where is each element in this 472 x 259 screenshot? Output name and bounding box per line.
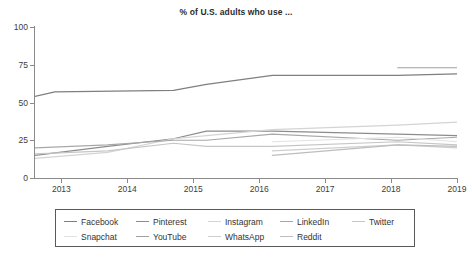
x-tick-mark <box>457 179 458 183</box>
legend-swatch-icon <box>136 221 149 222</box>
legend-item-label: Facebook <box>81 217 118 227</box>
y-tick-label: 25 <box>0 135 28 145</box>
line-series-facebook <box>35 74 457 97</box>
legend-item-twitter[interactable]: Twitter <box>352 214 394 229</box>
legend-swatch-icon <box>352 221 365 222</box>
legend-row: SnapchatYouTubeWhatsAppReddit <box>56 229 414 244</box>
legend-item-linkedin[interactable]: LinkedIn <box>280 214 329 229</box>
legend-item-reddit[interactable]: Reddit <box>280 229 322 244</box>
legend-item-label: Twitter <box>369 217 394 227</box>
x-tick-mark <box>61 179 62 183</box>
line-series-group <box>35 27 457 178</box>
legend-item-instagram[interactable]: Instagram <box>208 214 263 229</box>
legend-item-pinterest[interactable]: Pinterest <box>136 214 187 229</box>
legend-swatch-icon <box>280 221 293 222</box>
line-series-snapchat <box>272 137 457 142</box>
legend-swatch-icon <box>208 221 221 222</box>
y-tick-mark <box>30 140 34 141</box>
chart-figure: % of U.S. adults who use ... 0255075100 … <box>0 0 472 259</box>
legend-swatch-icon <box>64 221 77 222</box>
x-tick-label: 2014 <box>107 184 147 194</box>
legend-swatch-icon <box>280 236 293 237</box>
legend-swatch-icon <box>208 236 221 237</box>
legend-item-facebook[interactable]: Facebook <box>64 214 118 229</box>
legend-item-label: Pinterest <box>153 217 187 227</box>
plot-area <box>35 27 457 178</box>
legend-item-label: Snapchat <box>81 232 117 242</box>
y-tick-mark <box>30 65 34 66</box>
x-tick-label: 2013 <box>41 184 81 194</box>
legend-row: FacebookPinterestInstagramLinkedInTwitte… <box>56 214 414 229</box>
x-axis-spine <box>34 178 458 179</box>
legend-item-snapchat[interactable]: Snapchat <box>64 229 117 244</box>
y-tick-mark <box>30 178 34 179</box>
x-tick-label: 2017 <box>305 184 345 194</box>
legend-item-label: Reddit <box>297 232 322 242</box>
y-tick-mark <box>30 27 34 28</box>
x-tick-label: 2015 <box>173 184 213 194</box>
legend-item-label: YouTube <box>153 232 186 242</box>
y-tick-label: 50 <box>0 98 28 108</box>
x-tick-mark <box>127 179 128 183</box>
y-tick-label: 75 <box>0 60 28 70</box>
x-tick-mark <box>259 179 260 183</box>
y-tick-label: 100 <box>0 22 28 32</box>
x-tick-label: 2016 <box>239 184 279 194</box>
x-tick-mark <box>193 179 194 183</box>
legend-item-label: Instagram <box>225 217 263 227</box>
x-tick-mark <box>325 179 326 183</box>
y-tick-label: 0 <box>0 173 28 183</box>
legend-item-label: LinkedIn <box>297 217 329 227</box>
y-tick-mark <box>30 103 34 104</box>
legend-item-label: WhatsApp <box>225 232 264 242</box>
legend-item-youtube[interactable]: YouTube <box>136 229 186 244</box>
legend-swatch-icon <box>136 236 149 237</box>
x-tick-label: 2019 <box>437 184 472 194</box>
legend-item-whatsapp[interactable]: WhatsApp <box>208 229 264 244</box>
x-tick-label: 2018 <box>371 184 411 194</box>
x-tick-mark <box>391 179 392 183</box>
page-title: % of U.S. adults who use ... <box>0 7 472 17</box>
chart-legend: FacebookPinterestInstagramLinkedInTwitte… <box>55 209 415 247</box>
legend-swatch-icon <box>64 236 77 237</box>
